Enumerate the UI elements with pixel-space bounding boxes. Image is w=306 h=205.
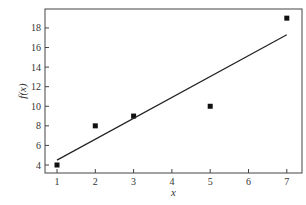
x-tick-label: 3 xyxy=(131,176,136,187)
x-tick-label: 6 xyxy=(246,176,251,187)
data-point-marker xyxy=(55,163,60,168)
plot-frame xyxy=(45,9,302,173)
plot-series xyxy=(55,16,290,168)
y-tick-label: 6 xyxy=(36,140,41,151)
y-tick-label: 10 xyxy=(31,101,41,112)
y-tick-label: 12 xyxy=(31,81,41,92)
y-tick-label: 4 xyxy=(36,160,41,171)
x-axis-ticks: 1234567 xyxy=(55,169,290,187)
y-tick-label: 14 xyxy=(31,62,41,73)
x-tick-label: 5 xyxy=(208,176,213,187)
x-tick-label: 2 xyxy=(93,176,98,187)
x-tick-label: 7 xyxy=(284,176,289,187)
x-tick-label: 1 xyxy=(55,176,60,187)
y-tick-label: 18 xyxy=(31,22,41,33)
y-axis-ticks: 4681012141618 xyxy=(31,22,49,170)
y-axis-label: f(x) xyxy=(16,83,29,99)
fit-line xyxy=(57,35,287,160)
x-axis-label: x xyxy=(170,186,176,198)
data-point-marker xyxy=(284,16,289,21)
chart: 4681012141618 1234567 x f(x) xyxy=(0,0,306,205)
data-point-marker xyxy=(208,104,213,109)
y-tick-label: 8 xyxy=(36,120,41,131)
data-point-marker xyxy=(93,123,98,128)
y-tick-label: 16 xyxy=(31,42,41,53)
